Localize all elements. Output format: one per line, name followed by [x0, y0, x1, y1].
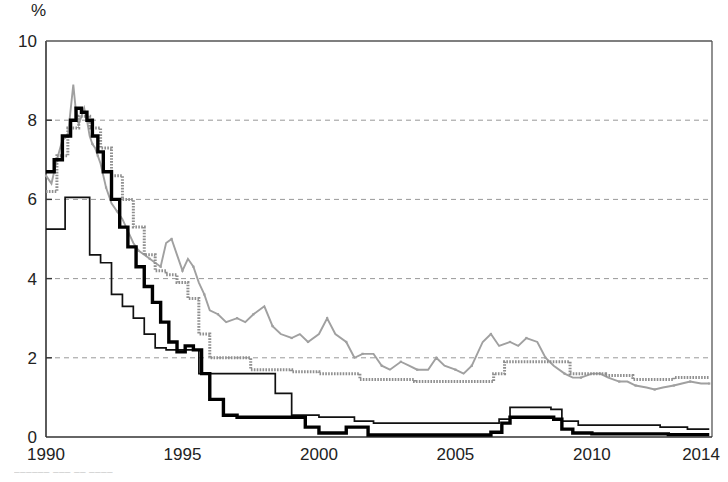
plot-area: 0246810 199019952000200520102014: [0, 0, 728, 482]
data-point-marker: [291, 337, 293, 339]
data-point-marker: [345, 341, 347, 343]
series-black-thin-step: [46, 197, 709, 429]
data-point-marker: [45, 175, 47, 177]
data-point-marker: [708, 382, 710, 384]
y-tick-label-2: 2: [28, 349, 37, 368]
data-point-marker: [181, 270, 183, 272]
data-point-marker: [580, 377, 582, 379]
series-black-thick: [46, 108, 709, 435]
chart-svg: 0246810 199019952000200520102014: [0, 0, 728, 482]
data-point-marker: [400, 361, 402, 363]
data-point-marker: [689, 380, 691, 382]
data-point-marker: [544, 357, 546, 359]
axes-group: [46, 41, 712, 437]
y-tick-label-10: 10: [18, 32, 37, 51]
data-point-marker: [160, 266, 162, 268]
data-point-marker: [97, 155, 99, 157]
series-gray-step: [46, 116, 709, 381]
x-tick-labels-group: 199019952000200520102014: [27, 445, 720, 464]
data-point-marker: [673, 384, 675, 386]
data-point-marker: [654, 388, 656, 390]
data-point-marker: [116, 210, 118, 212]
y-tick-label-8: 8: [28, 111, 37, 130]
data-point-marker: [454, 369, 456, 371]
data-point-marker: [217, 313, 219, 315]
data-point-marker: [471, 365, 473, 367]
y-tick-label-4: 4: [28, 270, 37, 289]
x-tick-label-2010: 2010: [573, 445, 611, 464]
data-point-marker: [307, 341, 309, 343]
data-point-marker: [326, 317, 328, 319]
data-point-marker: [192, 266, 194, 268]
data-point-marker: [271, 325, 273, 327]
data-point-marker: [170, 238, 172, 240]
data-series-group: [45, 85, 710, 435]
x-tick-label-2005: 2005: [437, 445, 475, 464]
x-tick-label-2000: 2000: [300, 445, 338, 464]
data-point-marker: [91, 143, 93, 145]
data-point-marker: [509, 341, 511, 343]
data-point-marker: [525, 337, 527, 339]
data-point-marker: [362, 353, 364, 355]
data-point-marker: [416, 369, 418, 371]
data-point-marker: [236, 317, 238, 319]
y-tick-labels-group: 0246810: [18, 32, 52, 447]
data-point-marker: [381, 365, 383, 367]
data-point-marker: [618, 380, 620, 382]
data-point-marker: [105, 186, 107, 188]
x-tick-label-1990: 1990: [27, 445, 65, 464]
data-point-marker: [252, 313, 254, 315]
data-point-marker: [490, 333, 492, 335]
data-point-marker: [435, 357, 437, 359]
gridlines-group: [46, 120, 712, 358]
y-tick-label-6: 6: [28, 190, 37, 209]
footnote-text: –––––– ––– –– ––––: [14, 466, 113, 477]
data-point-marker: [149, 258, 151, 260]
x-tick-label-2014: 2014: [682, 445, 720, 464]
chart-container: % 0246810 199019952000200520102014 –––––…: [0, 0, 728, 482]
x-tick-label-1995: 1995: [164, 445, 202, 464]
data-point-marker: [564, 373, 566, 375]
data-point-marker: [138, 250, 140, 252]
data-point-marker: [634, 384, 636, 386]
data-point-marker: [203, 293, 205, 295]
